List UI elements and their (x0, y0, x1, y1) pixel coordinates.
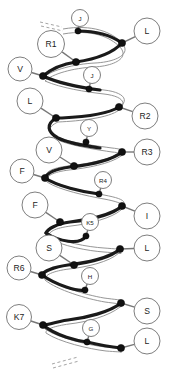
residue-label-text: K5 (86, 219, 94, 226)
residue-label-text: S (144, 306, 150, 316)
residue-label-text: R1 (46, 39, 57, 49)
residue-label-text: V (46, 145, 52, 155)
residue-label-text: L (145, 26, 150, 36)
residue-label-text: Y (87, 125, 91, 132)
residue-v-3[interactable]: V (8, 57, 47, 81)
alpha-carbon-atom[interactable] (115, 103, 122, 110)
residue-s-19[interactable]: S (117, 298, 160, 324)
residue-k7-20[interactable]: K7 (7, 305, 47, 330)
alpha-carbon-atom[interactable] (70, 261, 77, 268)
alpha-carbon-atom[interactable] (83, 233, 89, 239)
residue-label-text: L (28, 96, 33, 106)
residue-label-text: H (88, 273, 92, 280)
residue-label-text: R6 (14, 263, 25, 273)
residue-label-text: L (145, 243, 150, 253)
alpha-carbon-atom[interactable] (72, 58, 79, 65)
ribbon-spine (42, 31, 122, 348)
alpha-carbon-atom[interactable] (117, 299, 124, 306)
residue-label-text: G (89, 325, 94, 332)
alpha-carbon-atom[interactable] (116, 245, 123, 252)
residue-label-text: K7 (14, 312, 25, 322)
alpha-carbon-atom[interactable] (56, 218, 63, 225)
alpha-carbon-atom[interactable] (118, 202, 125, 209)
alpha-carbon-atom[interactable] (118, 148, 125, 155)
residue-f-10[interactable]: F (10, 159, 49, 183)
residue-label-text: R3 (142, 147, 153, 157)
residue-label-text: R2 (140, 111, 151, 121)
residue-label-text: F (32, 200, 37, 210)
ribbon-diagram: JLR1VJLR2YVR3FR4FIK5SLR6HSK7GL (0, 0, 172, 383)
alpha-carbon-atom[interactable] (82, 287, 88, 293)
residue-f-12[interactable]: F (22, 192, 64, 226)
residue-label-text: I (146, 211, 148, 221)
alpha-carbon-atom[interactable] (52, 114, 59, 121)
residue-label-text: S (46, 243, 52, 253)
alpha-carbon-atom[interactable] (75, 28, 81, 34)
residue-l-16[interactable]: L (116, 235, 160, 261)
residue-i-13[interactable]: I (118, 202, 160, 229)
residue-l-5[interactable]: L (17, 88, 60, 122)
residue-g-21[interactable]: G (83, 320, 100, 346)
alpha-carbon-atom[interactable] (96, 191, 102, 197)
alpha-carbon-atom[interactable] (41, 174, 48, 181)
alpha-carbon-atom[interactable] (86, 86, 92, 92)
alpha-carbon-atom[interactable] (39, 321, 46, 328)
residue-label-text: V (17, 64, 23, 74)
alpha-carbon-atom[interactable] (38, 271, 45, 278)
alpha-carbon-atom[interactable] (118, 39, 125, 46)
residue-label-text: F (19, 166, 24, 176)
alpha-carbon-atom[interactable] (117, 344, 124, 351)
residue-label-text: J (78, 15, 81, 22)
tail-bottom (52, 357, 79, 368)
residue-label-text: L (145, 336, 150, 346)
residue-l-22[interactable]: L (117, 328, 160, 354)
alpha-carbon-atom[interactable] (84, 339, 90, 345)
residue-r6-17[interactable]: R6 (7, 256, 46, 280)
alpha-carbon-atom[interactable] (70, 162, 77, 169)
alpha-carbon-atom[interactable] (83, 139, 89, 145)
residue-r3-9[interactable]: R3 (118, 139, 160, 165)
tail-top (40, 22, 63, 31)
residue-k5-14[interactable]: K5 (82, 214, 99, 240)
residue-h-18[interactable]: H (82, 268, 99, 294)
residue-y-7[interactable]: Y (81, 120, 98, 146)
residue-r2-6[interactable]: R2 (115, 103, 158, 129)
residue-l-1[interactable]: L (118, 18, 160, 47)
residue-label-text: R4 (99, 177, 107, 184)
residue-label-text: J (90, 72, 93, 79)
residue-r1-2[interactable]: R1 (38, 31, 80, 66)
alpha-carbon-atom[interactable] (39, 72, 46, 79)
figure-canvas: JLR1VJLR2YVR3FR4FIK5SLR6HSK7GL JLR1VJLR2… (0, 0, 172, 383)
residue-r4-11[interactable]: R4 (95, 172, 112, 198)
